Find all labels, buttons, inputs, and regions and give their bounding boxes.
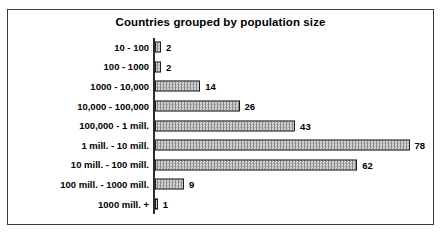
bar[interactable] [155,81,201,92]
category-label: 100 - 1000 [8,61,149,72]
bar-row: 100 - 1000 2 [8,58,435,77]
bar-row: 10,000 - 100,000 26 [8,97,435,116]
bar-group: 9 [155,179,195,190]
bar-group: 78 [155,140,426,151]
bar-row: 10 mill. - 100 mill. 62 [8,156,435,175]
bar[interactable] [155,42,162,53]
bar-value-label: 14 [205,81,216,92]
bar-value-label: 43 [300,120,311,131]
bar[interactable] [155,101,240,112]
bar-group: 2 [155,42,172,53]
bar-row: 100 mill. - 1000 mill. 9 [8,175,435,194]
category-label: 1000 - 10,000 [8,81,149,92]
category-label: 10 - 100 [8,42,149,53]
chart-title: Countries grouped by population size [8,16,433,28]
plot-area: 10 - 100 2 100 - 1000 2 1000 - 10,000 14… [8,34,435,224]
category-label: 10 mill. - 100 mill. [8,159,149,170]
bar-value-label: 26 [245,101,256,112]
bar[interactable] [155,120,296,131]
bar-row: 10 - 100 2 [8,38,435,57]
bar-group: 43 [155,120,311,131]
bar-row: 1 mill. - 10 mill. 78 [8,136,435,155]
bar-value-label: 2 [166,61,171,72]
bar-group: 62 [155,159,373,170]
bar-group: 2 [155,61,172,72]
category-label: 100,000 - 1 mill. [8,120,149,131]
bar-value-label: 1 [163,199,168,210]
bar[interactable] [155,61,162,72]
bar-group: 26 [155,101,256,112]
bar-value-label: 2 [166,42,171,53]
bar-value-label: 62 [362,159,373,170]
category-label: 10,000 - 100,000 [8,101,149,112]
category-label: 1000 mill. + [8,199,149,210]
bar-value-label: 78 [415,140,426,151]
bar-row: 100,000 - 1 mill. 43 [8,116,435,135]
bar-group: 14 [155,81,216,92]
bar[interactable] [155,179,184,190]
chart-frame: Countries grouped by population size 10 … [7,9,434,225]
category-label: 1 mill. - 10 mill. [8,140,149,151]
bar-group: 1 [155,199,169,210]
bar[interactable] [155,159,358,170]
bar[interactable] [155,140,410,151]
bar-value-label: 9 [189,179,194,190]
bar-row: 1000 mill. + 1 [8,195,435,214]
bar[interactable] [155,199,158,210]
bar-row: 1000 - 10,000 14 [8,77,435,96]
category-label: 100 mill. - 1000 mill. [8,179,149,190]
